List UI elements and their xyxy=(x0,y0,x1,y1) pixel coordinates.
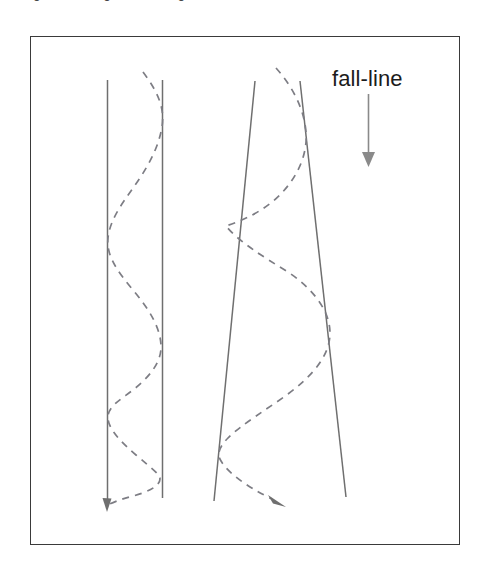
right-path-arrowhead xyxy=(268,495,286,507)
right-track-right-boundary-line xyxy=(300,81,346,497)
fall-line-arrowhead xyxy=(362,152,375,167)
right-track xyxy=(214,81,346,501)
left-track xyxy=(108,80,163,503)
right-track-left-boundary-line xyxy=(214,81,255,501)
left-dashed-path xyxy=(103,72,163,512)
figure-page: Figure: carving vs. skidding turns f xyxy=(0,0,484,566)
left-dashed-path-curve xyxy=(108,72,163,505)
fall-line-label: fall-line xyxy=(332,66,403,92)
fall-line-diagram xyxy=(0,0,484,566)
left-path-arrowhead xyxy=(103,498,112,512)
fall-line-arrow xyxy=(362,94,375,167)
